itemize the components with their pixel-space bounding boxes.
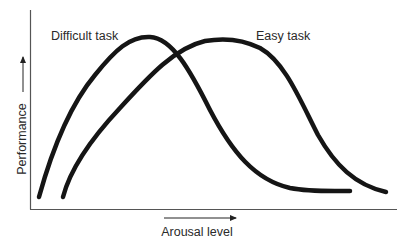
- x-axis-label: Arousal level: [161, 225, 233, 239]
- y-axis-label: Performance: [15, 103, 29, 175]
- difficult-task-label: Difficult task: [51, 29, 119, 43]
- easy-task-curve: [63, 39, 386, 197]
- difficult-task-curve: [39, 37, 350, 197]
- easy-task-label: Easy task: [256, 29, 311, 43]
- yerkes-dodson-diagram: Difficult task Easy task Performance Aro…: [0, 0, 410, 242]
